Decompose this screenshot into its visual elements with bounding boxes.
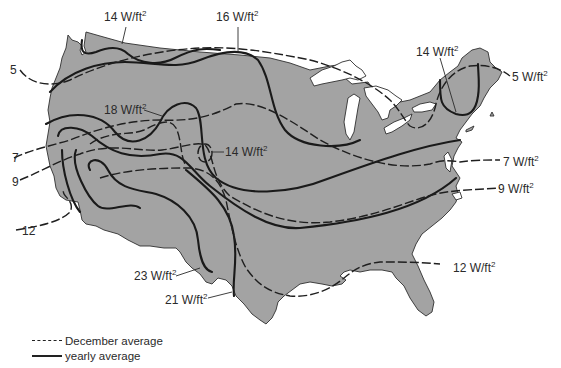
label-14-ne: 14 W/ft2 <box>416 46 458 58</box>
us-insolation-map <box>0 0 561 368</box>
dashed-line-swatch <box>32 340 62 341</box>
label-12-west: 12 <box>22 225 35 237</box>
label-18: 18 W/ft2 <box>104 104 146 116</box>
long-island <box>466 126 474 132</box>
label-9-west: 9 <box>12 176 19 188</box>
label-12-east: 12 W/ft2 <box>453 262 495 274</box>
label-7-east: 7 W/ft2 <box>503 156 539 168</box>
legend-item-yearly: yearly average <box>32 348 163 363</box>
label-5-east: 5 W/ft2 <box>512 71 548 83</box>
label-14-nw: 14 W/ft2 <box>104 11 146 23</box>
legend-label-yearly: yearly average <box>65 350 140 362</box>
label-21: 21 W/ft2 <box>165 294 207 306</box>
legend: December average yearly average <box>32 333 163 363</box>
legend-item-december: December average <box>32 333 163 348</box>
label-9-east: 9 W/ft2 <box>498 183 534 195</box>
legend-label-december: December average <box>65 335 163 347</box>
leader-23 <box>176 268 200 276</box>
label-16-n: 16 W/ft2 <box>216 11 258 23</box>
label-5-west: 5 <box>10 64 17 76</box>
leader-21 <box>208 292 232 298</box>
leader-14-nw <box>122 27 126 44</box>
solid-line-swatch <box>32 355 62 357</box>
label-14-center: 14 W/ft2 <box>225 146 267 158</box>
label-23: 23 W/ft2 <box>134 270 176 282</box>
label-7-west: 7 <box>12 152 19 164</box>
marthas-vineyard <box>490 112 494 116</box>
